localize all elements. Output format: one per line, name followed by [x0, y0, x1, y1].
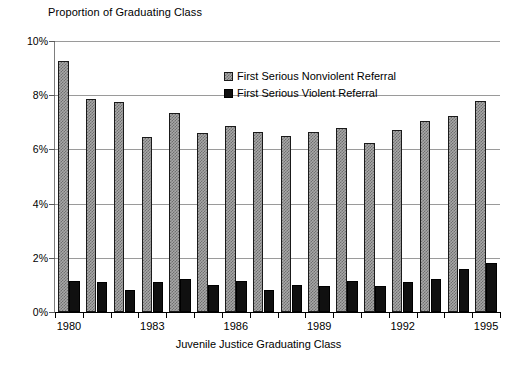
bar-violent-1992: [403, 282, 414, 312]
bar-nonviolent-1984: [169, 113, 180, 312]
y-axis-tick-mark: [49, 204, 55, 205]
bar-violent-1981: [97, 282, 108, 312]
y-axis-tick-label: 10%: [14, 36, 48, 46]
bar-nonviolent-1995: [475, 101, 486, 312]
gridline: [55, 41, 500, 42]
x-axis-tick-mark: [500, 312, 501, 318]
legend-item-nonviolent: First Serious Nonviolent Referral: [224, 68, 396, 85]
x-axis-tick-label: 1986: [216, 320, 256, 332]
legend-label-nonviolent: First Serious Nonviolent Referral: [237, 68, 396, 85]
bar-violent-1982: [125, 290, 136, 312]
chart-title: Proportion of Graduating Class: [48, 6, 202, 18]
x-axis-tick-mark: [472, 312, 473, 318]
x-axis-tick-mark: [278, 312, 279, 318]
bar-violent-1994: [459, 269, 470, 312]
x-axis-tick-mark: [250, 312, 251, 318]
bar-violent-1993: [431, 279, 442, 312]
legend-swatch-violent-icon: [224, 89, 233, 98]
x-axis-tick-mark: [361, 312, 362, 318]
bar-violent-1990: [347, 281, 358, 312]
y-axis-tick-label: 2%: [14, 253, 48, 263]
x-axis-tick-mark: [389, 312, 390, 318]
bar-nonviolent-1993: [420, 121, 431, 312]
y-axis-tick-mark: [49, 149, 55, 150]
bar-nonviolent-1986: [225, 126, 236, 312]
y-axis-tick-mark: [49, 41, 55, 42]
y-axis: 0%2%4%6%8%10%: [0, 0, 48, 366]
chart-container: Proportion of Graduating Class 0%2%4%6%8…: [0, 0, 517, 366]
bar-nonviolent-1982: [114, 102, 125, 312]
bar-nonviolent-1991: [364, 143, 375, 312]
bar-violent-1986: [236, 281, 247, 312]
bar-violent-1984: [180, 279, 191, 312]
y-axis-tick-mark: [49, 258, 55, 259]
x-axis-tick-mark: [417, 312, 418, 318]
x-axis-tick-mark: [55, 312, 56, 318]
x-axis-tick-mark: [166, 312, 167, 318]
bar-violent-1985: [208, 285, 219, 312]
bar-nonviolent-1981: [86, 99, 97, 312]
bar-nonviolent-1989: [308, 132, 319, 312]
x-axis-tick-label: 1983: [132, 320, 172, 332]
x-axis-tick-mark: [222, 312, 223, 318]
bar-violent-1988: [292, 285, 303, 312]
x-axis-tick-label: 1989: [299, 320, 339, 332]
chart-legend: First Serious Nonviolent Referral First …: [224, 68, 396, 102]
bar-violent-1980: [69, 281, 80, 312]
bar-nonviolent-1987: [253, 132, 264, 312]
bar-violent-1995: [486, 263, 497, 312]
bar-nonviolent-1980: [58, 61, 69, 312]
y-axis-tick-label: 0%: [14, 307, 48, 317]
bar-nonviolent-1990: [336, 128, 347, 312]
bar-nonviolent-1985: [197, 133, 208, 312]
bar-violent-1989: [319, 286, 330, 312]
bar-violent-1991: [375, 286, 386, 312]
x-axis-tick-mark: [194, 312, 195, 318]
bar-nonviolent-1994: [448, 116, 459, 312]
x-axis-tick-label: 1995: [466, 320, 506, 332]
x-axis-tick-label: 1980: [49, 320, 89, 332]
bar-nonviolent-1983: [142, 137, 153, 312]
bar-nonviolent-1992: [392, 130, 403, 312]
y-axis-tick-mark: [49, 95, 55, 96]
x-axis-tick-mark: [111, 312, 112, 318]
legend-label-violent: First Serious Violent Referral: [237, 85, 377, 102]
bar-violent-1983: [153, 282, 164, 312]
legend-swatch-nonviolent-icon: [224, 72, 233, 81]
x-axis-label: Juvenile Justice Graduating Class: [0, 338, 517, 350]
y-axis-tick-label: 6%: [14, 144, 48, 154]
y-axis-tick-label: 8%: [14, 90, 48, 100]
x-axis-tick-mark: [83, 312, 84, 318]
x-axis-tick-mark: [305, 312, 306, 318]
bar-nonviolent-1988: [281, 136, 292, 312]
x-axis-tick-mark: [333, 312, 334, 318]
y-axis-tick-label: 4%: [14, 199, 48, 209]
x-axis-tick-mark: [138, 312, 139, 318]
bar-violent-1987: [264, 290, 275, 312]
x-axis-tick-mark: [444, 312, 445, 318]
legend-item-violent: First Serious Violent Referral: [224, 85, 396, 102]
x-axis-tick-label: 1992: [383, 320, 423, 332]
